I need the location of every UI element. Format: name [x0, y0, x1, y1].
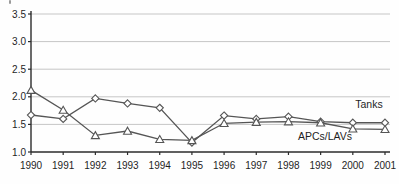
data-point-diamond [60, 115, 67, 122]
data-point-triangle [59, 106, 67, 113]
data-point-triangle [27, 86, 35, 93]
x-tick-label: 1996 [213, 160, 236, 171]
y-tick-label: 3.5 [12, 9, 26, 20]
y-tick-label: 2.0 [12, 91, 26, 102]
data-point-diamond [124, 100, 131, 107]
y-tick-label: 1.5 [12, 119, 26, 130]
x-tick-label: 1997 [245, 160, 268, 171]
x-tick-label: 1995 [181, 160, 204, 171]
x-tick-label: 2001 [374, 160, 397, 171]
data-point-triangle [124, 127, 132, 134]
data-point-diamond [27, 111, 34, 118]
x-tick-label: 1993 [116, 160, 139, 171]
x-tick-label: 1994 [149, 160, 172, 171]
y-tick-label: 1.0 [12, 147, 26, 158]
x-tick-label: 1998 [277, 160, 300, 171]
x-tick-label: 1990 [20, 160, 43, 171]
data-point-diamond [92, 95, 99, 102]
y-tick-label: 3.0 [12, 36, 26, 47]
x-tick-label: 2000 [342, 160, 365, 171]
series-label-tanks: Tanks [355, 98, 382, 110]
y-tick-label: 2.5 [12, 64, 26, 75]
line-chart: 1.01.52.02.53.03.51990199119921993199419… [0, 0, 399, 184]
x-tick-label: 1991 [52, 160, 75, 171]
chart-figure: 1.01.52.02.53.03.51990199119921993199419… [0, 0, 399, 184]
x-tick-label: 1999 [310, 160, 333, 171]
series-label-apcs-lavs: APCs/LAVs [298, 130, 352, 142]
x-tick-label: 1992 [84, 160, 107, 171]
